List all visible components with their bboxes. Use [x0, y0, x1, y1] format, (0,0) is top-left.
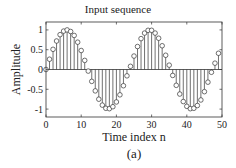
x-tick-label: 10	[76, 119, 86, 130]
y-axis-label: Amplitude	[9, 40, 24, 100]
x-tick-label: 50	[217, 119, 227, 130]
stem-marker	[68, 29, 73, 34]
stem-marker	[209, 70, 214, 75]
stem-marker	[181, 99, 186, 104]
x-tick-label: 40	[182, 119, 192, 130]
stem-marker	[51, 47, 56, 52]
stem-marker	[202, 89, 207, 94]
y-tick-label: -1	[35, 104, 43, 115]
stem-marker	[75, 40, 80, 45]
stem-marker	[79, 48, 84, 53]
stem-marker	[216, 51, 221, 56]
stem-marker	[153, 31, 158, 36]
stem-marker	[47, 57, 52, 62]
stem-marker	[114, 100, 119, 105]
stem-marker	[177, 92, 182, 97]
stem-marker	[139, 36, 144, 41]
y-tick-label: 0	[38, 64, 43, 75]
y-tick-label: 1	[38, 24, 43, 35]
stem-marker	[135, 44, 140, 49]
x-tick-label: 20	[111, 119, 121, 130]
stem-marker	[54, 39, 59, 44]
stem-marker	[58, 32, 63, 37]
stem-marker	[132, 54, 137, 59]
stem-marker	[121, 83, 126, 88]
stem-marker	[160, 43, 165, 48]
figure-caption: (a)	[46, 146, 222, 162]
stem-marker	[93, 89, 98, 94]
stem-marker	[195, 103, 200, 108]
stem-marker	[174, 83, 179, 88]
chart-title: Input sequence	[0, 3, 236, 15]
stem-marker	[111, 104, 116, 109]
stem-marker	[125, 74, 130, 79]
stem-marker	[86, 69, 91, 74]
x-tick-label: 30	[147, 119, 157, 130]
stem-marker	[89, 79, 94, 84]
stem-marker	[170, 73, 175, 78]
stem-marker	[156, 36, 161, 41]
stem-marker	[97, 97, 102, 102]
stem-marker	[206, 80, 211, 85]
stem-marker	[167, 63, 172, 68]
x-axis-label: Time index n	[46, 130, 222, 145]
stem-marker	[163, 53, 168, 58]
stem-marker	[128, 64, 133, 69]
y-tick-label: -0.5	[27, 84, 43, 95]
stem-marker	[72, 33, 77, 38]
stem-marker	[199, 98, 204, 103]
x-tick-label: 0	[44, 119, 49, 130]
y-tick-label: 0.5	[31, 44, 44, 55]
stem-marker	[82, 58, 87, 63]
stem-marker	[118, 93, 123, 98]
stem-marker	[213, 61, 218, 66]
stem-series	[44, 28, 222, 111]
